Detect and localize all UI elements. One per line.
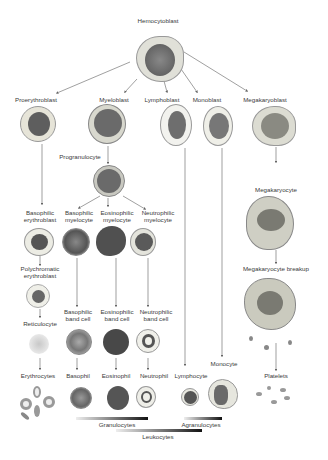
label-neutrophilic-myelocyte: Neutrophilic myelocyte bbox=[138, 209, 178, 223]
label-erythrocytes: Erythrocytes bbox=[10, 372, 66, 379]
nucleus bbox=[168, 111, 186, 139]
label-proerythroblast: Proerythroblast bbox=[8, 96, 64, 103]
label-megakaryocyte: Megakaryocyte bbox=[246, 186, 306, 193]
nucleus bbox=[97, 169, 121, 193]
label-monocyte: Monocyte bbox=[206, 360, 242, 367]
platelet bbox=[280, 388, 286, 392]
label-agranulocytes: Agranulocytes bbox=[176, 421, 226, 428]
label-lymphocyte: Lymphocyte bbox=[170, 372, 212, 379]
nucleus bbox=[209, 113, 229, 139]
platelet bbox=[256, 392, 262, 396]
nucleus bbox=[141, 391, 152, 403]
nucleus bbox=[261, 113, 289, 139]
label-basophilic-myelocyte: Basophilic myelocyte bbox=[62, 209, 96, 223]
reticulocyte-cell bbox=[29, 334, 49, 354]
polychromatic-erythroblast-cell bbox=[26, 284, 50, 308]
eosinophilic-band-cell bbox=[103, 329, 129, 355]
nucleus bbox=[142, 334, 155, 348]
label-eosinophilic-myelocyte: Eosinophilic myelocyte bbox=[98, 209, 136, 223]
bud bbox=[264, 345, 269, 350]
nucleus bbox=[28, 112, 50, 136]
bud bbox=[288, 340, 292, 345]
eosinophil-cell bbox=[107, 386, 129, 410]
megakaryocyte-cell bbox=[246, 196, 294, 250]
hemocytoblast-cell bbox=[136, 36, 184, 82]
platelet bbox=[284, 396, 290, 400]
megakaryoblast-cell bbox=[252, 106, 296, 146]
granulocytes-bar bbox=[76, 417, 148, 420]
bud bbox=[249, 336, 253, 341]
nucleus bbox=[184, 391, 197, 404]
platelet bbox=[267, 386, 271, 390]
erythrocyte bbox=[20, 398, 32, 410]
myeloblast-cell bbox=[88, 104, 126, 144]
label-basophilic-band-cell: Basophilic band cell bbox=[60, 308, 96, 322]
erythrocyte bbox=[34, 405, 40, 417]
monocyte-cell bbox=[208, 379, 238, 409]
label-reticulocyte: Reticulocyte bbox=[14, 320, 66, 327]
eosinophilic-myelocyte-cell bbox=[96, 226, 126, 256]
label-basophil: Basophil bbox=[60, 372, 96, 379]
basophilic-band-cell bbox=[66, 329, 92, 355]
progranulocyte-cell bbox=[93, 165, 125, 197]
neutrophilic-myelocyte-cell bbox=[130, 228, 156, 256]
erythrocyte bbox=[43, 396, 55, 408]
erythrocyte bbox=[33, 386, 41, 398]
nucleus bbox=[145, 44, 175, 76]
label-neutrophilic-band-cell: Neutrophilic band cell bbox=[136, 308, 176, 322]
label-eosinophil: Eosinophil bbox=[96, 372, 136, 379]
label-platelets: Platelets bbox=[256, 372, 296, 379]
label-granulocytes: Granulocytes bbox=[92, 421, 142, 428]
monoblast-cell bbox=[203, 106, 233, 146]
platelet bbox=[271, 400, 277, 404]
agranulocytes-bar bbox=[184, 417, 222, 420]
basophil-cell bbox=[70, 387, 92, 409]
lymphoblast-cell bbox=[160, 104, 192, 146]
lymphocyte-cell bbox=[181, 388, 199, 406]
label-monoblast: Monoblast bbox=[189, 96, 225, 103]
nucleus bbox=[32, 290, 45, 303]
nucleus bbox=[214, 385, 228, 405]
neutrophil-cell bbox=[136, 386, 156, 408]
basophilic-myelocyte-cell bbox=[62, 228, 90, 256]
leukocytes-bar bbox=[116, 429, 202, 432]
basophilic-erythroblast-cell bbox=[24, 228, 54, 256]
neutrophilic-band-cell bbox=[136, 329, 160, 353]
label-neutrophil: Neutrophil bbox=[134, 372, 174, 379]
nucleus bbox=[257, 291, 283, 315]
proerythroblast-cell bbox=[20, 106, 56, 142]
label-lymphoblast: Lymphoblast bbox=[140, 96, 184, 103]
nucleus bbox=[135, 233, 153, 251]
label-polychromatic-erythroblast: Polychromatic erythroblast bbox=[12, 265, 68, 279]
label-megakaryoblast: Megakaryoblast bbox=[238, 96, 292, 103]
label-hemocytoblast: Hemocytoblast bbox=[128, 17, 188, 24]
label-leukocytes: Leukocytes bbox=[136, 433, 180, 440]
nucleus bbox=[31, 234, 48, 250]
label-eosinophilic-band-cell: Eosinophilic band cell bbox=[97, 308, 137, 322]
megakaryocyte-breakup-cell bbox=[244, 278, 296, 330]
label-megakaryocyte-breakup: Megakaryocyte breakup bbox=[240, 265, 312, 272]
label-myeloblast: Myeloblast bbox=[94, 96, 134, 103]
nucleus bbox=[94, 109, 122, 137]
label-progranulocyte: Progranulocyte bbox=[56, 153, 104, 160]
label-basophilic-erythroblast: Basophilic erythroblast bbox=[12, 209, 68, 223]
nucleus bbox=[257, 209, 285, 231]
